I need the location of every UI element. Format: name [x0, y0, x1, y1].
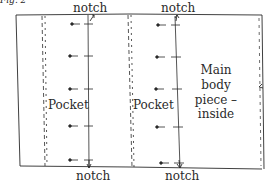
marker-dot-tick [69, 55, 93, 58]
notch-arrow-bottom-right [177, 160, 182, 168]
marker-dot-tick [157, 24, 180, 27]
left-pocket-seam-lines [42, 16, 47, 166]
marker-dot-tick [69, 88, 93, 91]
right-fold-line [175, 16, 180, 168]
marker-dot-tick [156, 56, 181, 59]
main-body-label-line: piece – [195, 93, 237, 107]
right-pocket-seam-lines [128, 15, 134, 167]
pocket-label-left: Pocket [48, 98, 89, 112]
left-marker-column [69, 23, 93, 162]
right-edge-notch [259, 84, 263, 88]
main-body-label-line: Main [200, 63, 231, 77]
sewing-pattern-diagram: Fig. 2 [0, 0, 269, 182]
right-edge-seam-line [259, 18, 261, 166]
notch-arrow-top-left [90, 15, 94, 21]
marker-dot-tick [69, 125, 93, 128]
notch-label-bottom-right: notch [165, 169, 199, 182]
marker-dot-tick [71, 23, 93, 26]
right-marker-column [155, 24, 184, 165]
notch-label-bottom-left: notch [76, 169, 110, 182]
marker-dot-tick [155, 88, 182, 91]
notch-markers [87, 15, 263, 168]
main-body-label: Main body piece – inside [195, 63, 237, 121]
main-body-label-line: body [201, 78, 231, 92]
figure-caption: Fig. 2 [0, 0, 27, 5]
marker-dot-tick [160, 162, 184, 165]
notch-arrow-top-right [175, 15, 179, 21]
notch-label-top-right: notch [161, 1, 195, 15]
pocket-label-right: Pocket [133, 98, 174, 112]
notch-label-top-left: notch [73, 1, 107, 15]
left-fold-line [88, 15, 89, 167]
main-body-label-line: inside [198, 107, 234, 121]
